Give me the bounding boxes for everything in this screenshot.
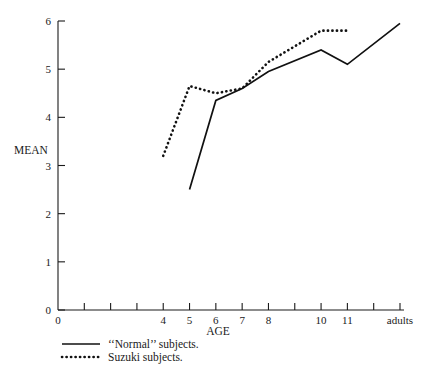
- x-tick-label: adults: [387, 314, 413, 326]
- chart-svg: 0123456 0456781011adults MEAN AGE ‘‘Norm…: [0, 0, 436, 378]
- data-series-layer: [163, 23, 400, 189]
- y-tick-label: 4: [46, 111, 52, 123]
- y-tick-label: 3: [46, 160, 52, 172]
- x-tick-label: 0: [55, 314, 61, 326]
- y-tick-label: 5: [46, 63, 52, 75]
- series-line-normal: [190, 23, 400, 189]
- x-axis-title: AGE: [206, 325, 230, 337]
- chart-figure: 0123456 0456781011adults MEAN AGE ‘‘Norm…: [0, 0, 436, 378]
- x-tick-label: 8: [266, 314, 272, 326]
- y-axis-title: MEAN: [14, 144, 49, 156]
- x-tick-label: 5: [187, 314, 193, 326]
- legend-label: ‘‘Normal’’ subjects.: [108, 338, 199, 351]
- legend-label: Suzuki subjects.: [108, 351, 183, 364]
- y-tick-label: 1: [46, 256, 52, 268]
- y-tick-label: 2: [46, 208, 52, 220]
- y-tick-label: 0: [46, 304, 52, 316]
- x-tick-label: 7: [239, 314, 245, 326]
- x-axis-tick-labels: 0456781011adults: [55, 314, 413, 326]
- x-tick-label: 11: [342, 314, 353, 326]
- x-axis-ticks: [84, 303, 400, 310]
- y-axis-tick-labels: 0123456: [46, 15, 52, 316]
- x-tick-label: 4: [160, 314, 166, 326]
- series-line-suzuki: [163, 31, 347, 156]
- chart-legend: ‘‘Normal’’ subjects.Suzuki subjects.: [62, 338, 199, 364]
- x-tick-label: 10: [316, 314, 328, 326]
- y-tick-label: 6: [46, 15, 52, 27]
- y-axis-ticks: [58, 21, 65, 310]
